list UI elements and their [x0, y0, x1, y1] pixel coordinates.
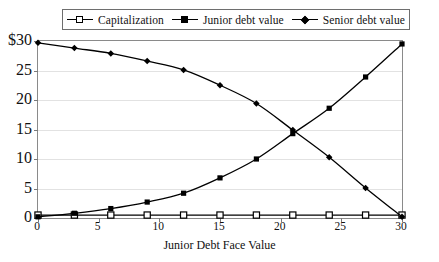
data-point-open-square — [363, 212, 369, 218]
data-point-filled-diamond — [71, 45, 78, 52]
series-senior-debt-value — [35, 40, 406, 221]
data-point-filled-diamond — [253, 100, 260, 107]
legend-label-senior-debt-value: Senior debt value — [323, 14, 405, 26]
chart-container: Capitalization Junior debt value Senior … — [0, 0, 439, 262]
y-axis-tick-label: 20 — [0, 90, 32, 108]
data-point-open-square — [108, 212, 114, 218]
x-axis-tick-label: 30 — [395, 220, 407, 232]
x-axis-tick-label: 10 — [153, 220, 165, 232]
legend-marker-filled-diamond-icon — [292, 14, 318, 25]
data-point-filled-diamond — [180, 67, 187, 74]
data-point-open-square — [326, 212, 332, 218]
series-junior-debt-value — [35, 41, 404, 219]
x-axis-tick-label: 15 — [213, 220, 225, 232]
legend-item-senior-debt-value: Senior debt value — [290, 14, 407, 26]
data-point-open-square — [181, 212, 187, 218]
series-line — [38, 43, 402, 217]
legend-label-junior-debt-value: Junior debt value — [203, 14, 284, 26]
legend-marker-open-square-icon — [67, 14, 93, 25]
series-line — [38, 44, 402, 217]
data-point-filled-square — [35, 214, 40, 219]
x-axis-tick-label: 0 — [34, 220, 40, 232]
y-axis-tick-label: $30 — [0, 31, 32, 49]
data-point-filled-diamond — [144, 58, 151, 65]
data-point-filled-square — [254, 156, 259, 161]
data-point-filled-square — [327, 106, 332, 111]
data-point-filled-diamond — [217, 82, 224, 89]
y-axis-tick-label: 5 — [0, 179, 32, 197]
data-point-filled-square — [217, 175, 222, 180]
legend-marker-filled-square-icon — [172, 14, 198, 25]
data-point-filled-square — [72, 211, 77, 216]
data-point-open-square — [253, 212, 259, 218]
data-point-filled-square — [145, 199, 150, 204]
data-point-open-square — [217, 212, 223, 218]
data-point-filled-diamond — [108, 50, 115, 57]
series-capitalization — [35, 212, 405, 218]
data-point-open-square — [144, 212, 150, 218]
chart-legend: Capitalization Junior debt value Senior … — [62, 9, 410, 30]
data-point-filled-square — [181, 191, 186, 196]
plot-area — [37, 40, 403, 219]
data-point-filled-square — [399, 41, 404, 46]
y-axis-tick-label: 0 — [0, 208, 32, 226]
legend-item-junior-debt-value: Junior debt value — [170, 14, 286, 26]
data-point-filled-square — [108, 206, 113, 211]
y-axis-tick-label: 10 — [0, 149, 32, 167]
data-point-filled-diamond — [35, 40, 42, 47]
x-axis-tick-label: 20 — [274, 220, 286, 232]
x-axis-tick-label: 25 — [335, 220, 347, 232]
legend-item-capitalization: Capitalization — [65, 14, 166, 26]
legend-label-capitalization: Capitalization — [98, 14, 164, 26]
y-axis-tick-label: 15 — [0, 120, 32, 138]
x-axis-tick-label: 5 — [95, 220, 101, 232]
series-layer — [38, 41, 402, 218]
data-point-filled-square — [363, 74, 368, 79]
x-axis-title: Junior Debt Face Value — [0, 238, 439, 253]
data-point-open-square — [290, 212, 296, 218]
y-axis-tick-label: 25 — [0, 61, 32, 79]
